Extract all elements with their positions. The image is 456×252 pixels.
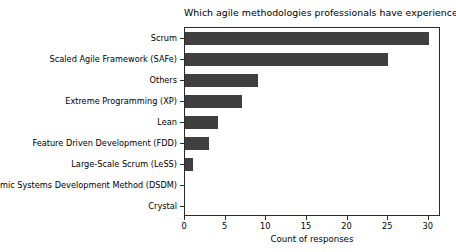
bar bbox=[185, 53, 388, 66]
bar bbox=[185, 137, 209, 150]
y-axis-tick-label: Extreme Programming (XP) bbox=[65, 96, 177, 106]
y-axis-tick bbox=[180, 59, 184, 60]
x-axis-tick-label: 20 bbox=[332, 221, 362, 231]
y-axis-tick-label: Crystal bbox=[148, 201, 177, 211]
y-axis-tick bbox=[180, 101, 184, 102]
bar-row bbox=[185, 70, 439, 91]
bar-row bbox=[185, 28, 439, 49]
y-axis-tick bbox=[180, 143, 184, 144]
chart-figure: Which agile methodologies professionals … bbox=[0, 0, 456, 252]
x-axis-tick-label: 0 bbox=[169, 221, 199, 231]
bar-row bbox=[185, 154, 439, 175]
x-axis-tick bbox=[306, 216, 307, 220]
y-axis-tick bbox=[180, 80, 184, 81]
x-axis-tick-label: 10 bbox=[250, 221, 280, 231]
bar-row bbox=[185, 49, 439, 70]
bar-row bbox=[185, 196, 439, 216]
bar bbox=[185, 116, 218, 129]
x-axis-title: Count of responses bbox=[184, 234, 440, 244]
bar bbox=[185, 32, 429, 45]
x-axis-tick bbox=[225, 216, 226, 220]
y-axis-tick bbox=[180, 164, 184, 165]
x-axis-tick-label: 25 bbox=[372, 221, 402, 231]
y-axis-tick-label: Scaled Agile Framework (SAFe) bbox=[50, 54, 177, 64]
y-axis-tick bbox=[180, 206, 184, 207]
y-axis-tick bbox=[180, 185, 184, 186]
bar bbox=[185, 95, 242, 108]
x-axis-tick bbox=[184, 216, 185, 220]
x-axis-tick-label: 15 bbox=[291, 221, 321, 231]
x-axis-tick bbox=[347, 216, 348, 220]
bar-row bbox=[185, 91, 439, 112]
x-axis-tick bbox=[387, 216, 388, 220]
y-axis-tick-label: Others bbox=[149, 75, 177, 85]
x-axis-tick-label: 5 bbox=[210, 221, 240, 231]
bar-row bbox=[185, 112, 439, 133]
y-axis-tick-label: Scrum bbox=[151, 33, 177, 43]
y-axis-tick bbox=[180, 38, 184, 39]
x-axis-tick-label: 30 bbox=[413, 221, 443, 231]
x-axis-tick bbox=[265, 216, 266, 220]
y-axis-tick bbox=[180, 122, 184, 123]
chart-title: Which agile methodologies professionals … bbox=[184, 7, 456, 18]
y-axis-tick-label: Dynamic Systems Development Method (DSDM… bbox=[0, 180, 177, 190]
bar bbox=[185, 158, 193, 171]
bar-row bbox=[185, 175, 439, 196]
y-axis-tick-label: Lean bbox=[157, 117, 177, 127]
plot-area bbox=[184, 27, 440, 216]
y-axis-tick-label: Feature Driven Development (FDD) bbox=[32, 138, 177, 148]
x-axis-tick bbox=[428, 216, 429, 220]
bar bbox=[185, 74, 258, 87]
bar-row bbox=[185, 133, 439, 154]
y-axis-tick-label: Large-Scale Scrum (LeSS) bbox=[71, 159, 177, 169]
